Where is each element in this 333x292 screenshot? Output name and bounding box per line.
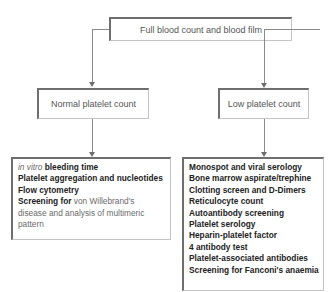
list-item: Bone marrow aspirate/trephine: [189, 173, 318, 184]
list-item-text: in vitro: [18, 162, 42, 172]
list-item-text: Screening for: [18, 196, 71, 206]
connector-normal-down: [92, 119, 93, 152]
list-item: Reticulocyte count: [189, 196, 318, 207]
list-item: Flow cytometry: [18, 185, 165, 196]
connector-right-join: [264, 29, 320, 30]
node-normal-label: Normal platelet count: [51, 99, 136, 109]
list-item: Platelet-associated antibodies: [189, 253, 318, 264]
list-item: Screening for von Willebrand's disease a…: [18, 196, 165, 230]
top-node-label: Full blood count and blood film: [140, 25, 262, 35]
list-item-text: Flow cytometry: [18, 185, 79, 195]
connector-top-left-horizontal: [92, 29, 109, 30]
list-item: Autoantibody screening: [189, 208, 318, 219]
connector-top-left-vertical: [92, 29, 93, 82]
list-item: Screening for Fanconi's anaemia: [189, 265, 318, 276]
list-item: 4 antibody test: [189, 242, 318, 253]
node-low-platelet-count: Low platelet count: [218, 88, 309, 119]
list-low-tests: Monospot and viral serology Bone marrow …: [182, 157, 324, 291]
list-item: Platelet serology: [189, 219, 318, 230]
list-item-text: Platelet aggregation and nucleotides: [18, 173, 163, 183]
arrow-down-icon: [89, 82, 95, 87]
connector-low-down: [264, 119, 265, 152]
list-normal-tests: in vitro bleeding time Platelet aggregat…: [11, 157, 171, 240]
node-low-label: Low platelet count: [228, 99, 301, 109]
node-normal-platelet-count: Normal platelet count: [37, 88, 149, 119]
list-item: Heparin-platelet factor: [189, 230, 318, 241]
list-item-text: bleeding time: [42, 162, 98, 172]
list-item: Monospot and viral serology: [189, 162, 318, 173]
list-item: Clotting screen and D-Dimers: [189, 185, 318, 196]
list-item: Platelet aggregation and nucleotides: [18, 173, 165, 184]
list-item: in vitro bleeding time: [18, 162, 165, 173]
connector-right-down: [264, 29, 265, 83]
